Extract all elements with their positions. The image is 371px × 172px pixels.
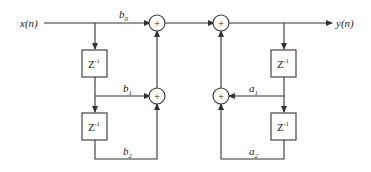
iir-block-diagram: + + + + Z-1 Z-1 Z-1 Z-1 x(n) y(n) b0 b1 … xyxy=(0,0,371,172)
coef-a2: a2 xyxy=(249,145,259,160)
coef-a1: a1 xyxy=(249,82,258,97)
input-label: x(n) xyxy=(19,17,38,30)
plus-icon: + xyxy=(154,91,160,102)
plus-icon: + xyxy=(218,91,224,102)
plus-icon: + xyxy=(154,18,160,29)
coef-b2: b2 xyxy=(123,145,133,160)
coef-b1: b1 xyxy=(123,82,132,97)
plus-icon: + xyxy=(218,18,224,29)
coef-b0: b0 xyxy=(119,8,129,23)
output-label: y(n) xyxy=(335,17,354,30)
